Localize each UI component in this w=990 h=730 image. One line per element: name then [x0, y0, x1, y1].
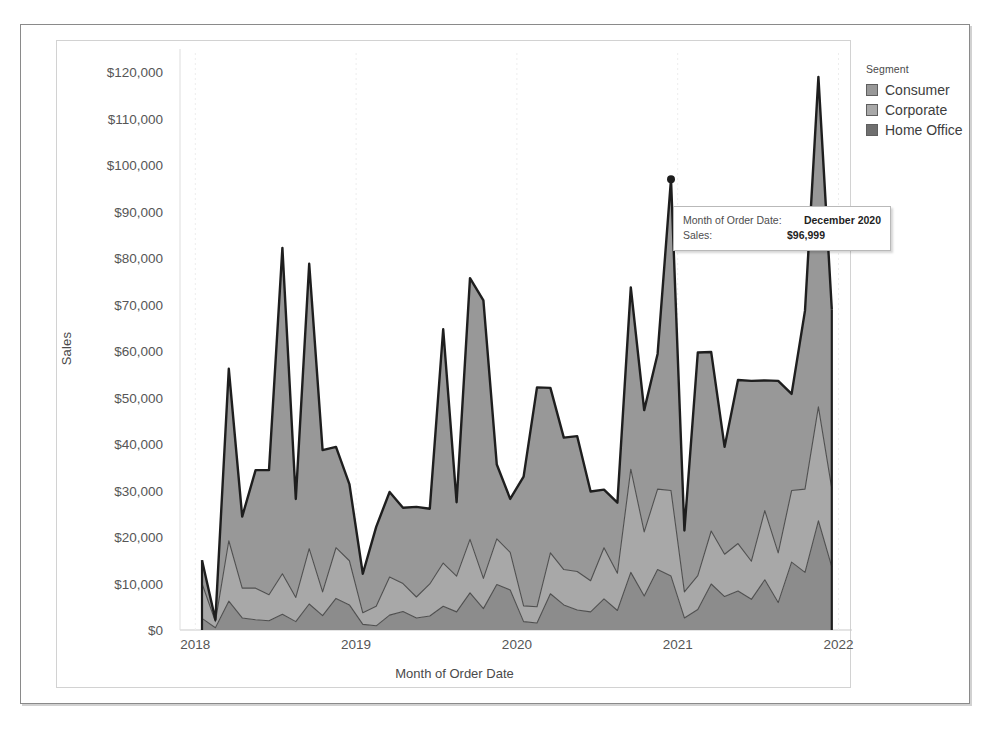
y-tick-label: $0: [77, 623, 163, 638]
tooltip-sales-value: $96,999: [781, 228, 825, 243]
legend-item-label: Home Office: [885, 122, 963, 138]
legend-item-label: Corporate: [885, 102, 947, 118]
y-tick-label: $100,000: [77, 158, 163, 173]
tooltip-row-date: Month of Order Date: December 2020: [683, 213, 881, 228]
legend-item-label: Consumer: [885, 82, 950, 98]
y-tick-label: $20,000: [77, 530, 163, 545]
x-tick-label: 2020: [502, 637, 532, 652]
legend-item-corporate[interactable]: Corporate: [866, 102, 981, 118]
y-tick-label: $80,000: [77, 251, 163, 266]
y-tick-label: $10,000: [77, 576, 163, 591]
y-tick-label: $30,000: [77, 483, 163, 498]
tooltip-row-sales: Sales: $96,999: [683, 228, 881, 243]
stacked-area-chart-svg[interactable]: [57, 41, 852, 689]
y-tick-label: $40,000: [77, 437, 163, 452]
y-axis-tick-labels: $0$10,000$20,000$30,000$40,000$50,000$60…: [77, 41, 163, 689]
y-tick-label: $120,000: [77, 65, 163, 80]
legend-swatch-icon: [866, 104, 878, 116]
legend-swatch-icon: [866, 124, 878, 136]
legend: Segment ConsumerCorporateHome Office: [866, 63, 981, 142]
legend-item-consumer[interactable]: Consumer: [866, 82, 981, 98]
chart-area[interactable]: $0$10,000$20,000$30,000$40,000$50,000$60…: [57, 41, 852, 689]
x-tick-label: 2018: [180, 637, 210, 652]
x-axis-title: Month of Order Date: [57, 666, 852, 681]
x-tick-label: 2022: [823, 637, 853, 652]
tooltip-date-key: Month of Order Date:: [683, 213, 782, 228]
tooltip-date-value: December 2020: [798, 213, 881, 228]
highlighted-data-point[interactable]: [667, 175, 675, 183]
y-tick-label: $90,000: [77, 204, 163, 219]
highlight-marker-dot[interactable]: [667, 175, 675, 183]
y-tick-label: $110,000: [77, 111, 163, 126]
y-axis-title: Sales: [59, 332, 74, 366]
y-tick-label: $70,000: [77, 297, 163, 312]
legend-swatch-icon: [866, 84, 878, 96]
page-frame: $0$10,000$20,000$30,000$40,000$50,000$60…: [20, 24, 970, 704]
y-tick-label: $60,000: [77, 344, 163, 359]
legend-item-home-office[interactable]: Home Office: [866, 122, 981, 138]
x-tick-label: 2021: [663, 637, 693, 652]
x-tick-label: 2019: [341, 637, 371, 652]
chart-tooltip: Month of Order Date: December 2020 Sales…: [673, 206, 891, 251]
y-tick-label: $50,000: [77, 390, 163, 405]
tooltip-sales-key: Sales:: [683, 228, 712, 243]
legend-title: Segment: [866, 63, 981, 75]
legend-items[interactable]: ConsumerCorporateHome Office: [866, 82, 981, 138]
visualization-frame: $0$10,000$20,000$30,000$40,000$50,000$60…: [56, 40, 851, 688]
